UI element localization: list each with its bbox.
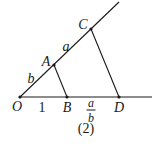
geometry-diagram: O A C B D b a 1 a b (2) [0, 0, 160, 148]
fraction-numerator: a [88, 97, 94, 109]
segment-cd [91, 29, 119, 97]
label-segment-oa: b [28, 72, 35, 86]
oblique-ray [20, 2, 119, 97]
point-b-dot [65, 95, 68, 98]
point-c-dot [89, 27, 92, 30]
label-segment-ob: 1 [39, 101, 46, 115]
point-a-dot [52, 63, 55, 66]
label-point-b: B [63, 101, 72, 115]
figure-caption: (2) [78, 122, 94, 136]
segment-ab [54, 65, 67, 97]
point-d-dot [117, 95, 120, 98]
label-segment-bd-fraction: a b [87, 97, 96, 124]
label-point-o: O [12, 100, 22, 114]
label-point-a: A [42, 55, 51, 69]
label-point-c: C [78, 18, 87, 32]
label-point-d: D [114, 101, 124, 115]
label-segment-ac: a [63, 40, 70, 54]
